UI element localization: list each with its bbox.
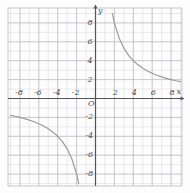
x-tick-label-6: 6 <box>151 89 156 97</box>
y-axis-arrow <box>93 5 97 8</box>
y-tick-label-8: 8 <box>87 19 92 27</box>
y-tick-label-neg6: -6 <box>85 151 93 159</box>
origin-label: O <box>88 100 95 108</box>
branch-quadrant-III <box>10 115 78 183</box>
y-tick-label-2: 2 <box>87 76 92 84</box>
y-tick-label-6: 6 <box>87 38 92 46</box>
x-tick-label-4: 4 <box>132 89 137 97</box>
y-axis-name-label: y <box>98 7 103 15</box>
y-tick-label-neg2: -2 <box>85 113 93 121</box>
x-tick-label--4: -4 <box>53 89 61 97</box>
coordinate-plane-svg <box>0 0 190 193</box>
graph-figure: -8-6-4-224682468-2-4-6-8Oxy <box>0 0 190 193</box>
x-tick-label-8: 8 <box>170 89 175 97</box>
y-tick-label-neg4: -4 <box>85 132 93 140</box>
x-tick-label--2: -2 <box>72 89 80 97</box>
x-tick-label-2: 2 <box>113 89 118 97</box>
x-tick-label--8: -8 <box>15 89 23 97</box>
branch-quadrant-I <box>112 13 180 81</box>
x-tick-label--6: -6 <box>34 89 42 97</box>
x-axis-name-label: x <box>176 88 181 96</box>
y-tick-label-4: 4 <box>87 57 92 65</box>
y-tick-label-neg8: -8 <box>85 170 93 178</box>
